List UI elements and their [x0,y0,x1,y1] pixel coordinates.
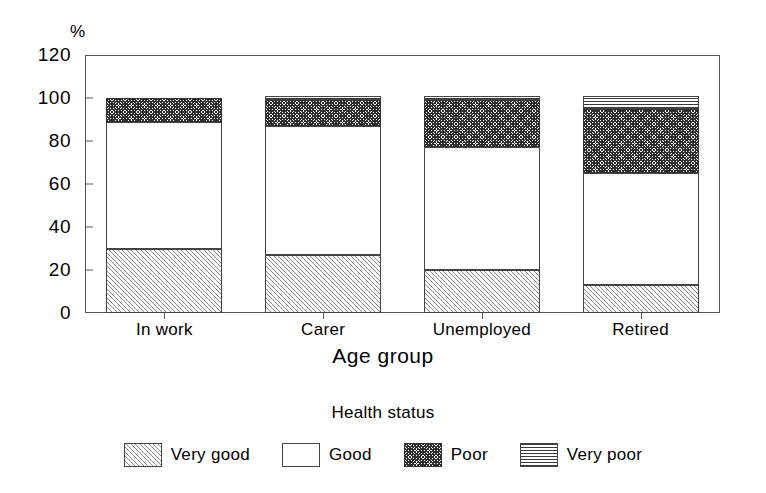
bar-segment [106,249,222,314]
bars-layer [85,55,720,313]
bar-stack [583,96,699,313]
legend-item-label: Very poor [567,445,642,465]
bar-group [106,55,222,313]
bar-segment [265,100,381,126]
bar-group [424,55,540,313]
x-axis-tick-mark [323,313,324,319]
stacked-bar-chart: % 020406080100120 In workCarerUnemployed… [0,0,766,493]
y-axis-tick-label: 80 [49,130,71,152]
x-axis-tick-mark [164,313,165,319]
legend-item-label: Good [329,445,372,465]
y-axis-tick-label: 60 [49,173,71,195]
bar-stack [424,96,540,313]
bar-segment [424,100,540,147]
legend-title: Health status [0,403,766,423]
y-axis-tick-mark [85,141,93,142]
y-axis-unit-label: % [70,22,85,42]
legend-swatch [124,443,162,467]
bar-segment [583,285,699,313]
bar-group [583,55,699,313]
bar-stack [265,96,381,313]
legend-swatch [520,443,558,467]
y-axis: 020406080100120 [0,55,85,313]
legend-item: Very poor [520,443,642,467]
legend-item-label: Very good [171,445,250,465]
legend-item: Poor [404,443,488,467]
bar-segment [583,173,699,285]
y-axis-tick-mark [85,270,93,271]
bar-segment [106,98,222,122]
bar-segment [106,122,222,249]
bar-segment [424,147,540,270]
y-axis-tick-mark [85,227,93,228]
bar-segment [265,126,381,255]
y-axis-tick-mark [85,98,93,99]
y-axis-tick-label: 20 [49,259,71,281]
bar-segment [583,109,699,174]
x-axis-tick-mark [482,313,483,319]
x-axis-tick-label: In work [136,320,193,340]
legend-item-label: Poor [451,445,488,465]
legend-item: Very good [124,443,250,467]
x-axis-title: Age group [0,344,766,368]
legend-swatch [282,443,320,467]
x-axis-tick-label: Retired [612,320,669,340]
x-axis-tick-mark [641,313,642,319]
bar-stack [106,98,222,313]
bar-segment [583,96,699,109]
legend-item: Good [282,443,372,467]
y-axis-tick-label: 0 [60,302,71,324]
x-axis-tick-label: Unemployed [433,320,531,340]
bar-segment [424,270,540,313]
bar-segment [265,255,381,313]
bar-group [265,55,381,313]
y-axis-tick-label: 120 [38,44,71,66]
y-axis-tick-label: 40 [49,216,71,238]
y-axis-tick-mark [85,184,93,185]
legend: Very goodGoodPoorVery poor [0,443,766,467]
legend-swatch [404,443,442,467]
y-axis-tick-label: 100 [38,87,71,109]
x-axis-tick-label: Carer [301,320,345,340]
